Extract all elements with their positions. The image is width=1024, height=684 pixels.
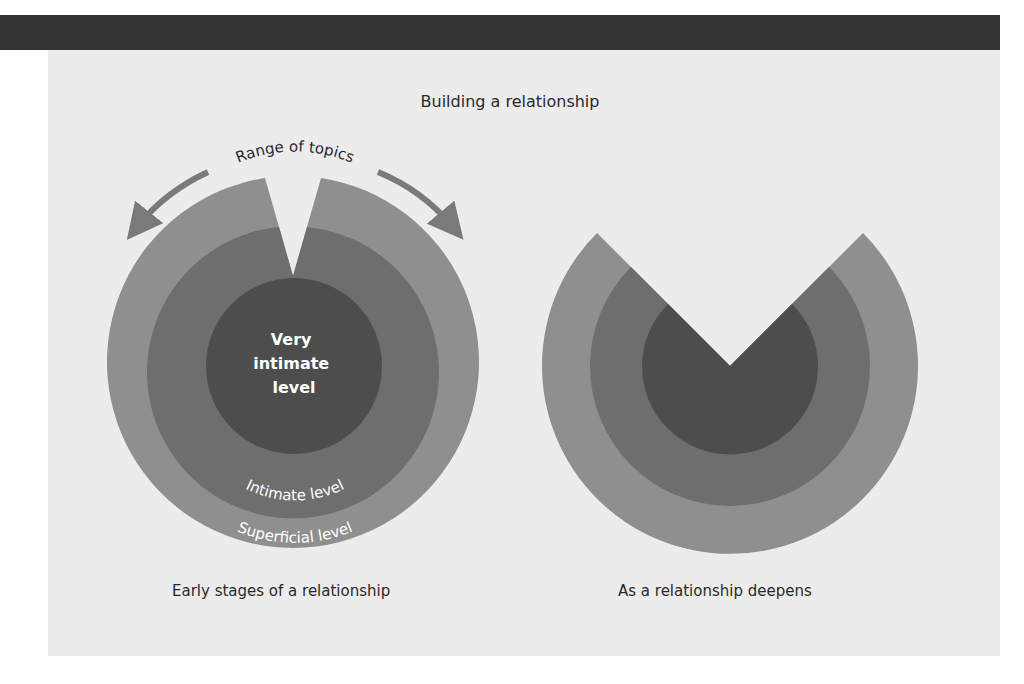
right-diagram	[542, 233, 918, 554]
caption-early-stages: Early stages of a relationship	[172, 582, 390, 600]
penetration-diagram: Range of topics Very intimate level Inti…	[0, 0, 1024, 684]
left-diagram: Range of topics Very intimate level Inti…	[107, 138, 479, 548]
range-of-topics-label: Range of topics	[233, 138, 357, 167]
caption-deepens: As a relationship deepens	[618, 582, 812, 600]
